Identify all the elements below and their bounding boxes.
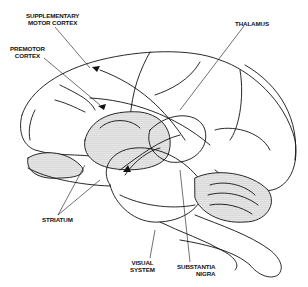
label-visual-system: VISUAL SYSTEM [130,259,155,273]
label-substantia-line1: SUBSTANTIA [177,263,215,270]
label-substantia-nigra: SUBSTANTIA NIGRA [177,263,215,277]
label-substantia-line2: NIGRA [177,270,215,277]
label-visual-line2: SYSTEM [130,266,155,273]
label-supplementary-motor-cortex: SUPPLEMENTARY MOTOR CORTEX [26,12,79,26]
label-premotor-cortex: PREMOTOR CORTEX [10,45,45,59]
striatum-region [85,112,171,170]
leader-substantia [180,170,190,262]
leader-premotor [44,58,100,105]
label-sma-line1: SUPPLEMENTARY [26,12,79,19]
label-striatum-line1: STRIATUM [42,216,73,223]
label-thalamus-line1: THALAMUS [235,20,269,27]
label-premotor-line2: CORTEX [10,52,45,59]
label-thalamus: THALAMUS [235,20,269,27]
label-visual-line1: VISUAL [130,259,155,266]
leader-visual [150,230,155,258]
leader-sma [55,27,90,68]
label-striatum: STRIATUM [42,216,73,223]
leader-striatum-2 [58,180,100,215]
label-premotor-line1: PREMOTOR [10,45,45,52]
cerebellum [195,173,271,223]
label-sma-line2: MOTOR CORTEX [26,19,79,26]
leader-thalamus [180,26,244,110]
brain-illustration [0,0,308,287]
